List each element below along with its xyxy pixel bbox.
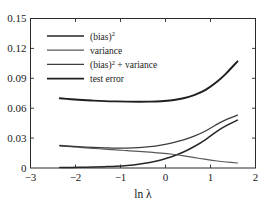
figure-container: 00.030.060.090.120.15 −3−2−1012 ln λ (bi…	[0, 0, 267, 204]
legend-label-3: test error	[90, 74, 125, 84]
legend-label-0: (bias)2	[90, 30, 115, 42]
y-tick-label: 0.15	[7, 12, 27, 24]
x-tick-label: −3	[25, 171, 37, 183]
x-axis-title: ln λ	[134, 188, 152, 200]
x-tick-label: −2	[70, 171, 82, 183]
y-tick-label: 0.09	[7, 72, 27, 84]
x-tick-label: 0	[163, 171, 169, 183]
y-tick-label: 0.06	[7, 102, 27, 114]
x-tick-label: 1	[208, 171, 214, 183]
bias-variance-chart: 00.030.060.090.120.15 −3−2−1012 ln λ (bi…	[0, 0, 267, 204]
x-tick-label: −1	[115, 171, 127, 183]
x-tick-label: 2	[253, 171, 259, 183]
legend-label-1: variance	[90, 46, 122, 56]
y-tick-label: 0.12	[7, 42, 26, 54]
y-tick-label: 0.03	[7, 132, 27, 144]
legend-label-2: (bias)2 + variance	[90, 59, 157, 71]
